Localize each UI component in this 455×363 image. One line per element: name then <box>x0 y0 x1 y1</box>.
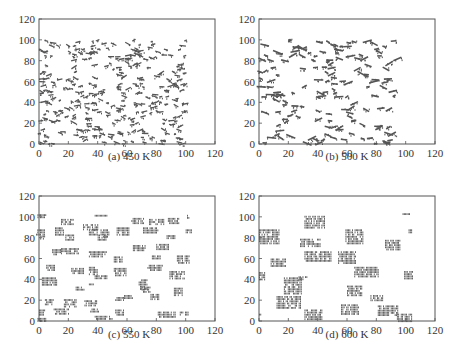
y-tick-label: 80 <box>244 232 256 244</box>
y-tick-label: 40 <box>244 96 256 108</box>
caption-a: (a) 450 K <box>99 150 159 162</box>
caption-d: (d) 600 K <box>317 328 377 340</box>
y-tick-label: 0 <box>250 138 256 150</box>
y-tick-label: 0 <box>30 315 36 327</box>
y-tick-label: 100 <box>19 211 36 223</box>
x-tick-label: 20 <box>283 147 295 159</box>
y-tick-label: 80 <box>244 55 256 67</box>
x-tick-label: 100 <box>397 147 414 159</box>
x-tick-label: 20 <box>63 324 75 336</box>
x-tick-label: 0 <box>36 147 42 159</box>
y-tick-label: 40 <box>244 273 256 285</box>
y-tick-label: 120 <box>239 190 256 202</box>
y-tick-label: 20 <box>244 294 256 306</box>
data-points <box>36 214 192 322</box>
x-tick-label: 20 <box>63 147 75 159</box>
x-tick-label: 120 <box>427 324 444 336</box>
panel-d: 020406080100120020406080100120 (d) 600 K <box>220 177 455 363</box>
x-tick-label: 100 <box>177 147 194 159</box>
x-tick-label: 120 <box>427 147 444 159</box>
data-points <box>38 39 189 147</box>
x-tick-label: 100 <box>177 324 194 336</box>
x-tick-label: 20 <box>283 324 295 336</box>
y-tick-label: 80 <box>24 55 36 67</box>
axes-frame <box>39 19 215 144</box>
y-tick-label: 20 <box>24 117 36 129</box>
x-tick-label: 100 <box>397 324 414 336</box>
y-tick-label: 40 <box>24 96 36 108</box>
panel-b: 020406080100120020406080100120 (b) 500 K <box>220 0 455 180</box>
caption-b: (b) 500 K <box>317 150 377 162</box>
y-tick-label: 60 <box>244 76 256 88</box>
y-tick-label: 120 <box>19 190 36 202</box>
y-tick-label: 100 <box>19 34 36 46</box>
y-tick-label: 100 <box>239 211 256 223</box>
y-tick-label: 20 <box>24 294 36 306</box>
data-points <box>259 213 413 322</box>
caption-c: (c) 550 K <box>99 328 159 340</box>
y-tick-label: 60 <box>244 253 256 265</box>
y-tick-label: 60 <box>24 253 36 265</box>
y-tick-label: 40 <box>24 273 36 285</box>
axes-frame <box>259 19 435 144</box>
y-tick-label: 0 <box>250 315 256 327</box>
panel-c: 020406080100120020406080100120 (c) 550 K <box>0 177 227 363</box>
x-tick-label: 0 <box>36 324 42 336</box>
y-tick-label: 100 <box>239 34 256 46</box>
y-tick-label: 0 <box>30 138 36 150</box>
panel-a: 020406080100120020406080100120 (a) 450 K <box>0 0 227 180</box>
x-tick-label: 0 <box>256 147 262 159</box>
y-tick-label: 120 <box>19 13 36 25</box>
x-tick-label: 0 <box>256 324 262 336</box>
y-tick-label: 60 <box>24 76 36 88</box>
y-tick-label: 120 <box>239 13 256 25</box>
y-tick-label: 80 <box>24 232 36 244</box>
data-points <box>257 39 403 146</box>
y-tick-label: 20 <box>244 117 256 129</box>
